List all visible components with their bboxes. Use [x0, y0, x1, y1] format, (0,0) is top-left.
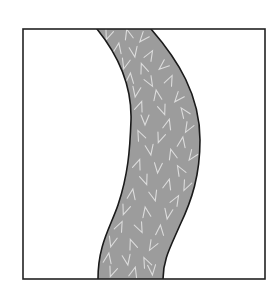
curved-band-diagram: [0, 0, 279, 296]
